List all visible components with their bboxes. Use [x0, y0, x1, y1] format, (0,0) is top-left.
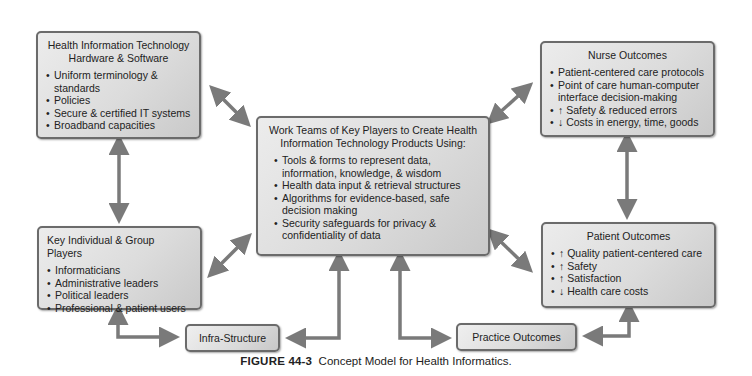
- list-item: Broadband capacities: [46, 119, 191, 132]
- list-item: ↑ Quality patient-centered care: [551, 247, 706, 260]
- list-item: ↓ Costs in energy, time, goods: [550, 116, 705, 129]
- list-item: ↑ Satisfaction: [551, 272, 706, 285]
- work-teams-title: Work Teams of Key Players to Create Heal…: [268, 124, 478, 150]
- hit-hardware-software-box: Health Information Technology Hardware &…: [36, 31, 201, 139]
- arrow-workteams-infra: [292, 264, 339, 338]
- arrow-workteams-practice: [400, 264, 445, 338]
- list-item: ↑ Safety: [551, 260, 706, 273]
- list-item: Administrative leaders: [47, 277, 192, 290]
- nurse-outcomes-box: Nurse Outcomes Patient-centered care pro…: [540, 41, 715, 137]
- practice-outcomes-box: Practice Outcomes: [456, 323, 577, 351]
- infra-structure-box: Infra-Structure: [185, 324, 280, 352]
- list-item: Secure & certified IT systems: [46, 107, 191, 120]
- list-item: ↓ Health care costs: [551, 285, 706, 298]
- list-item: Health data input & retrieval structures: [274, 179, 478, 192]
- work-teams-box: Work Teams of Key Players to Create Heal…: [256, 116, 490, 256]
- list-item: Security safeguards for privacy & confid…: [274, 217, 478, 242]
- players-box-list: Informaticians Administrative leaders Po…: [47, 264, 192, 314]
- work-teams-list: Tools & forms to represent data, informa…: [268, 154, 478, 242]
- patient-box-list: ↑ Quality patient-centered care ↑ Safety…: [551, 247, 706, 297]
- list-item: Uniform terminology & standards: [46, 69, 191, 94]
- list-item: ↑ Safety & reduced errors: [550, 104, 705, 117]
- nurse-box-title: Nurse Outcomes: [550, 49, 705, 62]
- patient-box-title: Patient Outcomes: [551, 230, 706, 243]
- list-item: Professional & patient users: [47, 302, 192, 315]
- list-item: Informaticians: [47, 264, 192, 277]
- arrow-players-workteams: [217, 238, 247, 268]
- hit-box-title-line1: Health Information Technology: [46, 39, 191, 52]
- list-item: Algorithms for evidence-based, safe deci…: [274, 192, 478, 217]
- players-box-title: Key Individual & Group Players: [47, 234, 192, 260]
- arrow-workteams-nurse: [497, 87, 528, 115]
- list-item: Political leaders: [47, 289, 192, 302]
- key-players-box: Key Individual & Group Players Informati…: [37, 226, 202, 310]
- nurse-box-list: Patient-centered care protocols Point of…: [550, 66, 705, 129]
- hit-box-list: Uniform terminology & standards Policies…: [46, 69, 191, 132]
- arrow-patient-practice: [589, 315, 629, 336]
- hit-box-title-line2: Hardware & Software: [46, 52, 191, 65]
- list-item: Point of care human-computer interface d…: [550, 79, 705, 104]
- caption-figure-number: FIGURE 44-3: [240, 355, 312, 367]
- caption-text: Concept Model for Health Informatics.: [319, 355, 512, 367]
- arrow-hit-workteams: [219, 95, 246, 122]
- list-item: Policies: [46, 94, 191, 107]
- arrow-players-infra: [118, 318, 173, 337]
- work-teams-title-line2: Information Technology Products Using:: [268, 137, 478, 150]
- hit-box-title: Health Information Technology Hardware &…: [46, 39, 191, 65]
- arrow-workteams-patient: [497, 238, 528, 268]
- figure-caption: FIGURE 44-3 Concept Model for Health Inf…: [0, 355, 752, 367]
- list-item: Tools & forms to represent data, informa…: [274, 154, 478, 179]
- work-teams-title-line1: Work Teams of Key Players to Create Heal…: [268, 124, 478, 137]
- list-item: Patient-centered care protocols: [550, 66, 705, 79]
- patient-outcomes-box: Patient Outcomes ↑ Quality patient-cente…: [541, 222, 716, 308]
